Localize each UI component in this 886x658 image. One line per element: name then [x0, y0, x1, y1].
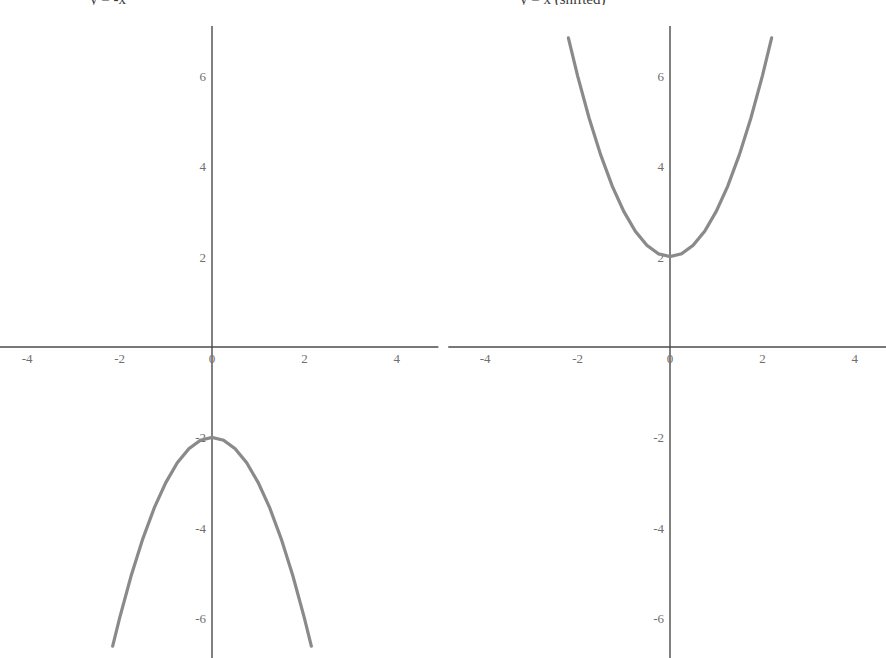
y-tick-label: -2 — [653, 430, 664, 445]
x-tick-label: 2 — [301, 351, 308, 366]
plot-surface-right: -4-2024-6-4-2246 — [446, 0, 886, 658]
y-tick-label: -4 — [195, 521, 206, 536]
y-tick-label: -4 — [653, 521, 664, 536]
x-tick-label: 2 — [759, 351, 766, 366]
y-tick-label: -6 — [195, 611, 206, 626]
x-tick-label: 4 — [852, 351, 859, 366]
x-tick-label: 4 — [394, 351, 401, 366]
y-tick-label: 4 — [658, 159, 665, 174]
y-tick-label: 2 — [658, 250, 665, 265]
y-tick-label: -6 — [653, 611, 664, 626]
x-tick-label: 0 — [667, 351, 674, 366]
chart-right: -4-2024-6-4-2246 — [446, 0, 886, 658]
chart-left: -4-2024-6-4-2246 — [0, 0, 440, 658]
x-tick-label: -2 — [114, 351, 125, 366]
figure-page: y = -x y = x (shifted) -4-2024-6-4-2246 … — [0, 0, 886, 658]
y-tick-label: 4 — [200, 159, 207, 174]
x-tick-label: 0 — [209, 351, 216, 366]
x-tick-label: -4 — [22, 351, 33, 366]
x-tick-label: -4 — [480, 351, 491, 366]
plot-surface-left: -4-2024-6-4-2246 — [0, 0, 440, 658]
y-tick-label: 6 — [658, 69, 665, 84]
x-tick-label: -2 — [572, 351, 583, 366]
y-tick-label: 2 — [200, 250, 207, 265]
y-tick-label: 6 — [200, 69, 207, 84]
